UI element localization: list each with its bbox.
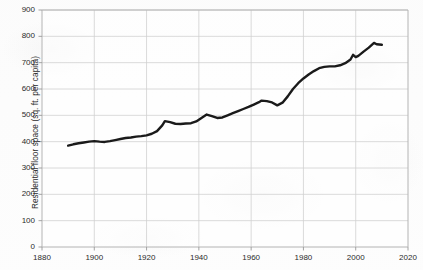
x-tick-label: 1960 [236,253,266,262]
x-tick-label: 1880 [27,253,57,262]
y-tick-label: 300 [11,163,35,172]
chart-figure: Residential floor space (sq. ft. per cap… [0,0,423,270]
x-tick-label: 1900 [79,253,109,262]
plot-background [42,10,408,247]
y-tick-label: 700 [11,58,35,67]
x-tick-label: 2020 [393,253,423,262]
x-tick-label: 1940 [184,253,214,262]
x-tick-label: 2000 [341,253,371,262]
y-tick-label: 500 [11,110,35,119]
x-tick-label: 1980 [288,253,318,262]
y-tick-label: 200 [11,189,35,198]
y-tick-label: 800 [11,31,35,40]
y-tick-label: 900 [11,5,35,14]
y-tick-label: 400 [11,137,35,146]
y-tick-label: 100 [11,216,35,225]
line-chart-plot [0,0,423,270]
x-tick-label: 1920 [132,253,162,262]
y-tick-label: 600 [11,84,35,93]
y-tick-label: 0 [11,242,35,251]
